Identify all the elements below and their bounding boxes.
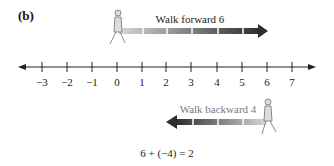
backward-label: Walk backward 4 xyxy=(180,103,257,115)
tick-label: 4 xyxy=(214,76,220,88)
tick-label: 7 xyxy=(289,76,295,88)
tick-label: 6 xyxy=(264,76,270,88)
walker-figure-icon xyxy=(262,99,276,134)
forward-label: Walk forward 6 xyxy=(156,13,225,25)
walker-figure-icon xyxy=(110,10,125,44)
number-line: −3 −2 −1 0 1 2 3 4 5 6 7 xyxy=(18,62,316,88)
tick-label: −3 xyxy=(36,76,48,88)
forward-arrow xyxy=(119,24,268,38)
number-line-diagram: (b) Walk forward 6 −3 −2 xyxy=(0,0,334,166)
tick-label: 5 xyxy=(239,76,245,88)
tick-label: 3 xyxy=(188,76,194,88)
tick-label: −1 xyxy=(86,76,98,88)
tick-label: 2 xyxy=(163,76,169,88)
tick-label: 1 xyxy=(139,76,145,88)
equation: 6 + (−4) = 2 xyxy=(140,147,193,160)
tick-label: −2 xyxy=(61,76,73,88)
backward-arrow xyxy=(166,115,266,129)
tick-label: 0 xyxy=(114,76,120,88)
panel-label: (b) xyxy=(18,8,34,23)
